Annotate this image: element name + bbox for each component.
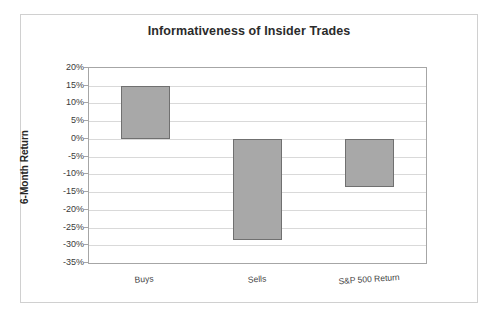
y-tick-label: -30%: [40, 239, 84, 249]
y-tick-label: -25%: [40, 222, 84, 232]
y-tick-label: -5%: [40, 151, 84, 161]
x-tick-label: Sells: [196, 270, 316, 288]
y-axis-tick-labels: 20%15%10%5%0%-5%-10%-15%-20%-25%-30%-35%: [38, 67, 84, 264]
y-tick-label: 20%: [40, 62, 84, 72]
y-tick-label: -15%: [40, 186, 84, 196]
y-tick-label: -20%: [40, 204, 84, 214]
gridline: [89, 245, 426, 246]
plot-area: [88, 67, 427, 264]
bar: [233, 139, 282, 240]
y-axis-title: 6-Month Return: [19, 2, 30, 112]
x-tick-label: Buys: [84, 270, 204, 288]
x-axis-tick-labels: BuysSellsS&P 500 Return: [88, 268, 427, 298]
y-tick-label: -10%: [40, 168, 84, 178]
y-axis-title-text: 6-Month Return: [19, 112, 30, 222]
y-tick-label: 0%: [40, 133, 84, 143]
bar: [345, 139, 394, 187]
y-tick-label: 10%: [40, 97, 84, 107]
y-tick-label: 5%: [40, 115, 84, 125]
y-tick-label: -35%: [40, 257, 84, 267]
y-tick-label: 15%: [40, 80, 84, 90]
x-tick-label: S&P 500 Return: [309, 270, 429, 288]
bar: [121, 86, 170, 139]
chart-title: Informativeness of Insider Trades: [0, 24, 498, 38]
chart-figure: Informativeness of Insider Trades 6-Mont…: [0, 0, 498, 319]
